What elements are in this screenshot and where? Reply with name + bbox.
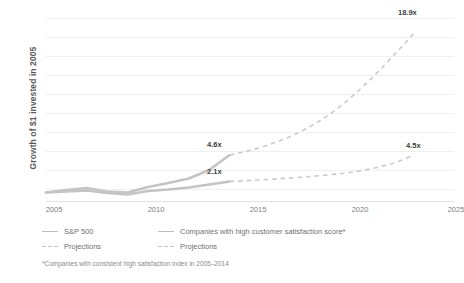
legend-item-projections-high-satisfaction[interactable]: Projections <box>158 242 217 251</box>
projection-line-sp500 <box>230 156 414 182</box>
data-label-4-6x: 4.6x <box>207 140 222 149</box>
solid-line-icon <box>158 228 174 235</box>
x-tick-2020: 2020 <box>352 205 369 214</box>
legend-label-sp500: S&P 500 <box>64 227 93 236</box>
x-tick-2025: 2025 <box>448 205 464 214</box>
legend-item-sp500[interactable]: S&P 500 <box>42 227 158 236</box>
chart-legend: S&P 500 Companies with high customer sat… <box>42 224 372 254</box>
x-tick-2005: 2005 <box>46 205 63 214</box>
data-label-2-1x: 2.1x <box>207 167 222 176</box>
legend-row-projections: Projections Projections <box>42 239 372 254</box>
chart-footnote: *Companies with consistent high satisfac… <box>42 260 229 267</box>
legend-item-projections-sp500[interactable]: Projections <box>42 242 158 251</box>
series-line-high-satisfaction <box>46 155 230 193</box>
legend-label-projections-high-satisfaction: Projections <box>180 242 217 251</box>
plot-area: 18.9x 4.6x 2.1x 4.5x <box>46 12 454 202</box>
legend-item-high-satisfaction[interactable]: Companies with high customer satisfactio… <box>158 227 346 236</box>
x-axis-ticks: 2005 2010 2015 2020 2025 <box>46 205 454 219</box>
legend-label-projections-sp500: Projections <box>64 242 101 251</box>
legend-row-solid: S&P 500 Companies with high customer sat… <box>42 224 372 239</box>
solid-line-icon <box>42 228 58 235</box>
legend-label-high-satisfaction: Companies with high customer satisfactio… <box>180 227 346 236</box>
series-lines <box>46 12 454 202</box>
x-tick-2015: 2015 <box>250 205 267 214</box>
data-label-18-9x: 18.9x <box>398 8 417 17</box>
y-axis-title: Growth of $1 invested in 2005 <box>28 23 38 193</box>
dashed-line-icon <box>158 243 174 250</box>
projection-line-high-satisfaction <box>230 34 414 155</box>
dashed-line-icon <box>42 243 58 250</box>
x-tick-2010: 2010 <box>148 205 165 214</box>
data-label-4-5x: 4.5x <box>406 141 421 150</box>
